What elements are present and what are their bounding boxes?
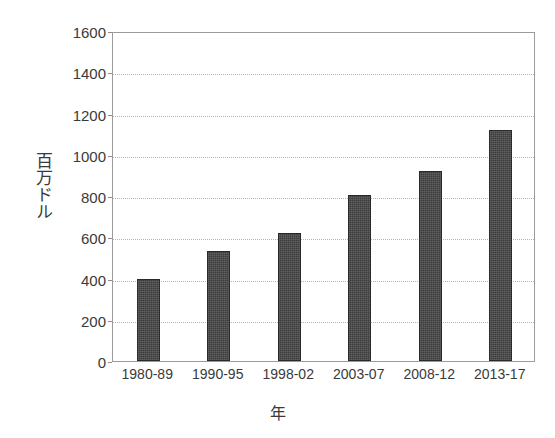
gridline xyxy=(113,281,534,282)
gridline xyxy=(113,74,534,75)
x-axis-tick-label: 2013-17 xyxy=(465,366,536,382)
y-axis-tick-label: 1000 xyxy=(60,149,106,164)
x-axis-title: 年 xyxy=(0,400,555,424)
bar xyxy=(489,130,512,361)
x-axis-tick-label: 1990-95 xyxy=(183,366,254,382)
bar xyxy=(348,195,371,361)
y-axis-tick-label: 1600 xyxy=(60,25,106,40)
y-axis-tick-label: 800 xyxy=(60,190,106,205)
plot-inner xyxy=(113,33,534,361)
y-axis-tick-label: 1200 xyxy=(60,108,106,123)
y-axis-title: 百万ドル xyxy=(18,136,52,236)
plot-area xyxy=(112,32,535,362)
bar xyxy=(278,233,301,361)
gridline xyxy=(113,239,534,240)
bar xyxy=(419,171,442,361)
x-axis-tick-label: 1980-89 xyxy=(112,366,183,382)
x-axis-tick-labels: 1980-891990-951998-022003-072008-122013-… xyxy=(112,366,535,386)
x-axis-tick-label: 2003-07 xyxy=(324,366,395,382)
x-axis-tick-label: 2008-12 xyxy=(394,366,465,382)
bar xyxy=(207,251,230,361)
y-axis-tick-label: 0 xyxy=(60,355,106,370)
y-axis-tick-label: 200 xyxy=(60,314,106,329)
gridline xyxy=(113,116,534,117)
y-axis-tick-label: 600 xyxy=(60,231,106,246)
x-axis-tick-label: 1998-02 xyxy=(253,366,324,382)
gridline xyxy=(113,157,534,158)
y-axis-tick-mark xyxy=(108,362,112,363)
gridline xyxy=(113,322,534,323)
y-axis-tick-label: 400 xyxy=(60,273,106,288)
y-axis-tick-labels: 02004006008001000120014001600 xyxy=(58,0,106,438)
y-axis-tick-label: 1400 xyxy=(60,66,106,81)
gridline xyxy=(113,198,534,199)
bar xyxy=(137,279,160,362)
bar-chart: 百万ドル 02004006008001000120014001600 1980-… xyxy=(0,0,555,438)
